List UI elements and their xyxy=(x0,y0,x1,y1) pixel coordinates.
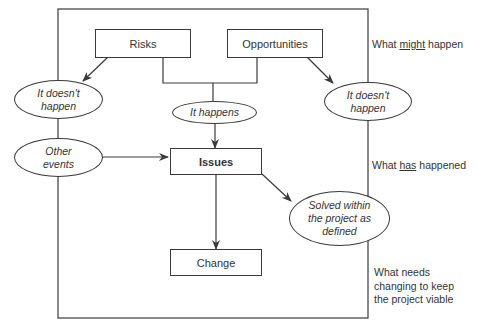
arrow-opps-to-doesnt-happen xyxy=(307,57,333,83)
ellipse-text: It doesn't xyxy=(347,89,389,102)
label-text: happen xyxy=(425,38,463,50)
ellipse-text: happen xyxy=(37,100,79,113)
ellipse-text: happen xyxy=(347,102,389,115)
arrow-issues-to-solved xyxy=(262,174,291,201)
label-what-needs-changing: What needs changing to keep the project … xyxy=(374,266,454,307)
label-text: What xyxy=(372,159,399,171)
other-events-ellipse: Other events xyxy=(14,138,103,177)
label-what-might-happen: What might happen xyxy=(372,38,463,52)
ellipse-text: It happens xyxy=(190,106,239,119)
right-doesnt-happen-ellipse: It doesn't happen xyxy=(324,82,412,121)
join-connector xyxy=(163,57,257,83)
label-text: changing to keep xyxy=(374,280,454,294)
change-label: Change xyxy=(197,257,236,269)
change-box: Change xyxy=(170,249,262,276)
ellipse-text: defined xyxy=(308,225,371,238)
issues-label: Issues xyxy=(199,156,233,168)
label-text: happened xyxy=(416,159,466,171)
issues-box: Issues xyxy=(170,148,262,175)
opportunities-label: Opportunities xyxy=(242,38,307,50)
label-emphasis: might xyxy=(399,38,425,50)
risks-label: Risks xyxy=(130,38,157,50)
arrow-risks-to-doesnt-happen xyxy=(83,57,108,81)
ellipse-text: the project as xyxy=(308,212,371,225)
ellipse-text: events xyxy=(43,158,74,171)
ellipse-text: It doesn't xyxy=(37,87,79,100)
label-text: What xyxy=(372,38,399,50)
label-emphasis: has xyxy=(399,159,416,171)
solved-within-project-ellipse: Solved within the project as defined xyxy=(289,191,390,246)
it-happens-ellipse: It happens xyxy=(172,101,257,124)
label-what-has-happened: What has happened xyxy=(372,159,466,173)
label-text: the project viable xyxy=(374,293,454,307)
label-text: What needs xyxy=(374,266,454,280)
ellipse-text: Other xyxy=(43,145,74,158)
risks-box: Risks xyxy=(95,29,191,58)
opportunities-box: Opportunities xyxy=(227,29,323,58)
ellipse-text: Solved within xyxy=(308,199,371,212)
left-doesnt-happen-ellipse: It doesn't happen xyxy=(14,80,103,119)
